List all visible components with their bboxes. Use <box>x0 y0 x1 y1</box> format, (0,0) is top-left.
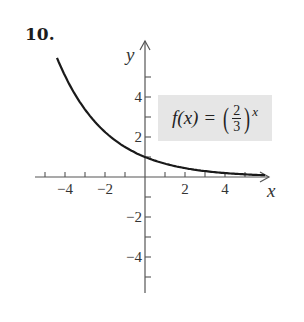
x-axis-label: x <box>266 180 276 201</box>
x-tick-label: −2 <box>97 181 113 197</box>
y-tick-label: 4 <box>135 89 143 105</box>
formula-exponent: x <box>252 104 258 120</box>
x-tick-label: 2 <box>181 181 189 197</box>
formula-equals: = <box>204 107 215 129</box>
x-tick-label: −4 <box>57 181 73 197</box>
fraction: 2 3 <box>232 103 241 134</box>
formula-lhs: f(x) <box>172 107 198 129</box>
fraction-denominator: 3 <box>233 119 240 134</box>
fraction-numerator: 2 <box>232 103 241 119</box>
y-tick-label: −4 <box>126 249 142 265</box>
y-axis-label: y <box>124 44 135 65</box>
axes <box>35 41 269 293</box>
y-tick-label: 2 <box>135 129 143 145</box>
x-tick-label: 4 <box>221 181 229 197</box>
y-tick-label: −2 <box>126 209 142 225</box>
function-label-box: f(x) = ( 2 3 ) x <box>158 95 272 141</box>
left-paren-icon: ( <box>223 103 229 133</box>
right-paren-icon: ) <box>244 103 250 133</box>
function-graph: −4−22442−2−4 x y <box>0 0 304 322</box>
